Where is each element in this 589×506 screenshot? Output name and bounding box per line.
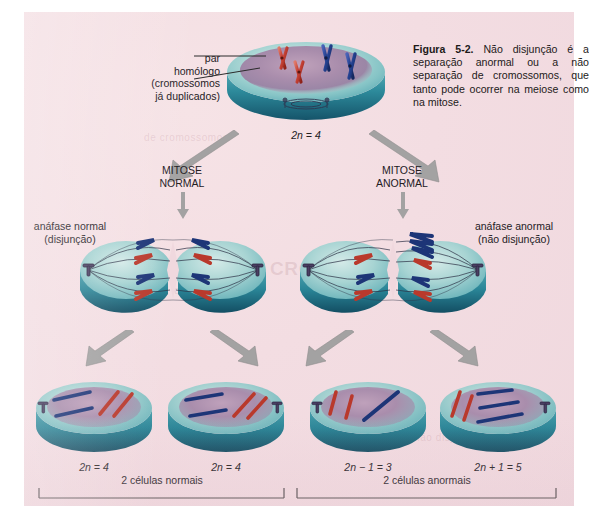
abnormal-cells-bracket-label: 2 células anormais bbox=[296, 474, 558, 487]
anaphase-abnormal-graphic bbox=[298, 214, 488, 336]
daughter-cell-3 bbox=[306, 364, 431, 456]
abnormal-cells-bracket bbox=[296, 486, 558, 500]
parent-count-label: 2n = 4 bbox=[256, 129, 356, 142]
daughter-cell-4-graphic bbox=[436, 364, 561, 456]
daughter-cell-1-graphic bbox=[32, 364, 157, 456]
paper-background: MUTAÇÕES CROMOSSÔMICAS de cromossomos nã… bbox=[24, 12, 574, 506]
mitosis-abnormal-line-1: MITOSE bbox=[342, 164, 462, 177]
mitosis-normal-line-2: NORMAL bbox=[122, 177, 242, 190]
daughter-cell-2-graphic bbox=[164, 364, 289, 456]
daughter-cell-1 bbox=[32, 364, 157, 456]
mitosis-normal-label: MITOSE NORMAL bbox=[122, 164, 242, 189]
mitosis-normal-line-1: MITOSE bbox=[122, 164, 242, 177]
anaphase-abnormal-cell bbox=[298, 214, 488, 336]
figure-caption: Figura 5-2. Não disjunção é a separação … bbox=[413, 43, 589, 109]
daughter-1-count: 2n = 4 bbox=[44, 461, 144, 474]
daughter-cell-2 bbox=[164, 364, 289, 456]
daughter-3-count: 2n − 1 = 3 bbox=[316, 461, 420, 474]
daughter-4-count: 2n + 1 = 5 bbox=[446, 461, 550, 474]
daughter-cell-4 bbox=[436, 364, 561, 456]
normal-cells-bracket bbox=[38, 486, 286, 500]
homologous-pair-leader-line bbox=[194, 48, 304, 98]
figure-caption-label: Figura 5-2. bbox=[413, 43, 474, 55]
normal-cells-bracket-label: 2 células normais bbox=[38, 474, 286, 487]
mitosis-abnormal-line-2: ANORMAL bbox=[342, 177, 462, 190]
anaphase-normal-cell bbox=[78, 214, 268, 336]
daughter-cell-3-graphic bbox=[306, 364, 431, 456]
anaphase-normal-graphic bbox=[78, 214, 268, 336]
daughter-2-count: 2n = 4 bbox=[176, 461, 276, 474]
mitosis-abnormal-label: MITOSE ANORMAL bbox=[342, 164, 462, 189]
